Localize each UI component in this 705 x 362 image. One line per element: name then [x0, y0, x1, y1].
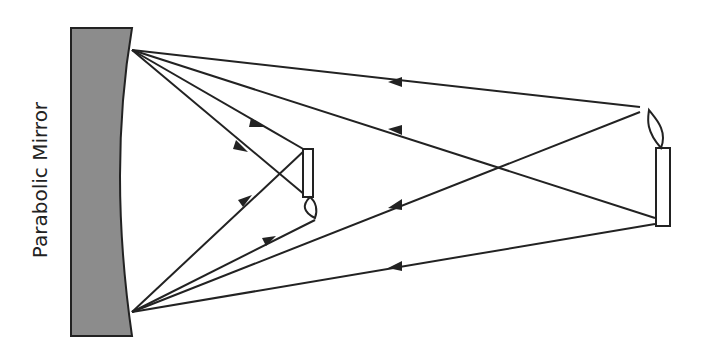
parabolic-mirror	[71, 28, 132, 336]
ray-diagram	[0, 0, 705, 362]
arrows	[233, 77, 402, 271]
parabolic-mirror-diagram: Parabolic Mirror	[0, 0, 705, 362]
rays	[132, 50, 655, 312]
object-candle	[648, 110, 670, 226]
image-candle	[303, 149, 316, 218]
